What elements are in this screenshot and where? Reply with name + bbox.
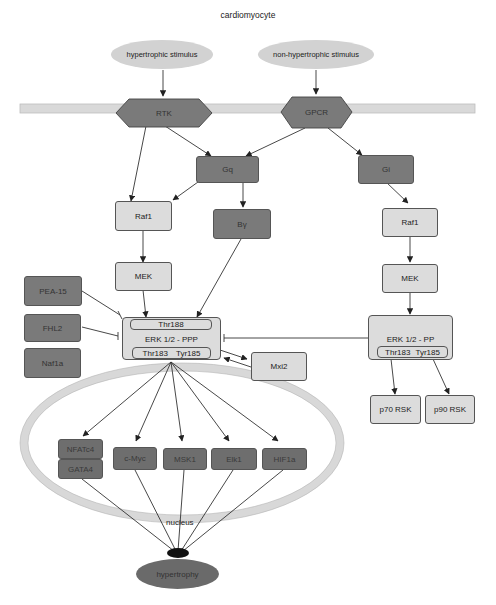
msk1-node[interactable]: MSK1 — [163, 448, 207, 470]
c-myc-node[interactable]: c-Myc — [113, 447, 157, 470]
erk-ppp-label: ERK 1/2 - PPP — [123, 335, 220, 344]
p70-rsk-node[interactable]: p70 RSK — [370, 395, 421, 424]
mek-left-node[interactable]: MEK — [115, 262, 172, 291]
mek-right-node[interactable]: MEK — [382, 264, 438, 293]
p90-rsk-node[interactable]: p90 RSK — [425, 395, 475, 424]
elk1-node[interactable]: Elk1 — [211, 448, 257, 470]
rtk-receptor[interactable]: RTK — [115, 98, 213, 128]
gpcr-receptor[interactable]: GPCR — [280, 96, 353, 129]
erk-pp-bottom-sites: Thr183 Tyr185 — [377, 346, 448, 358]
pea15-node[interactable]: PEA-15 — [24, 276, 82, 306]
edges — [82, 70, 449, 551]
naf1a-node[interactable]: Naf1a — [24, 348, 81, 378]
nucleus-label: nucleus — [166, 518, 194, 527]
nfatc4-node[interactable]: NFATc4 — [58, 439, 103, 459]
cell-membrane — [20, 104, 475, 113]
diagram-title: cardiomyocyte — [0, 10, 496, 20]
gq-node[interactable]: Gq — [196, 156, 259, 183]
hif1a-node[interactable]: HIF1a — [262, 448, 307, 470]
erk-pp-complex[interactable]: ERK 1/2 - PP Thr183 Tyr185 — [368, 315, 453, 360]
beta-gamma-node[interactable]: Βγ — [213, 209, 271, 239]
tyr185-site: Tyr185 — [176, 349, 200, 358]
hypertrophy-outcome[interactable]: hypertrophy — [136, 559, 219, 589]
rtk-label: RTK — [156, 109, 172, 118]
merge-node — [167, 548, 189, 558]
gi-node[interactable]: Gi — [358, 155, 414, 184]
mxi2-node[interactable]: Mxi2 — [251, 352, 307, 381]
thr188-site: Thr188 — [130, 319, 212, 330]
raf1-right-node[interactable]: Raf1 — [382, 208, 438, 237]
raf1-left-node[interactable]: Raf1 — [115, 201, 172, 231]
erk-pp-label: ERK 1/2 - PP — [369, 335, 452, 344]
gpcr-label: GPCR — [305, 108, 328, 117]
gata4-node[interactable]: GATA4 — [58, 459, 103, 479]
thr183-site: Thr183 — [143, 349, 168, 358]
fhl2-node[interactable]: FHL2 — [24, 314, 81, 342]
non-hypertrophic-stimulus[interactable]: non-hypertrophic stimulus — [258, 40, 374, 69]
erk-ppp-bottom-sites: Thr183 Tyr185 — [132, 347, 211, 359]
tyr185-site: Tyr185 — [415, 348, 439, 357]
thr183-site: Thr183 — [385, 348, 410, 357]
erk-ppp-complex[interactable]: Thr188 ERK 1/2 - PPP Thr183 Tyr185 — [122, 317, 221, 360]
pathway-diagram: cardiomyocyte hypertrophic stimulus non-… — [0, 0, 496, 605]
hypertrophic-stimulus[interactable]: hypertrophic stimulus — [111, 40, 213, 69]
